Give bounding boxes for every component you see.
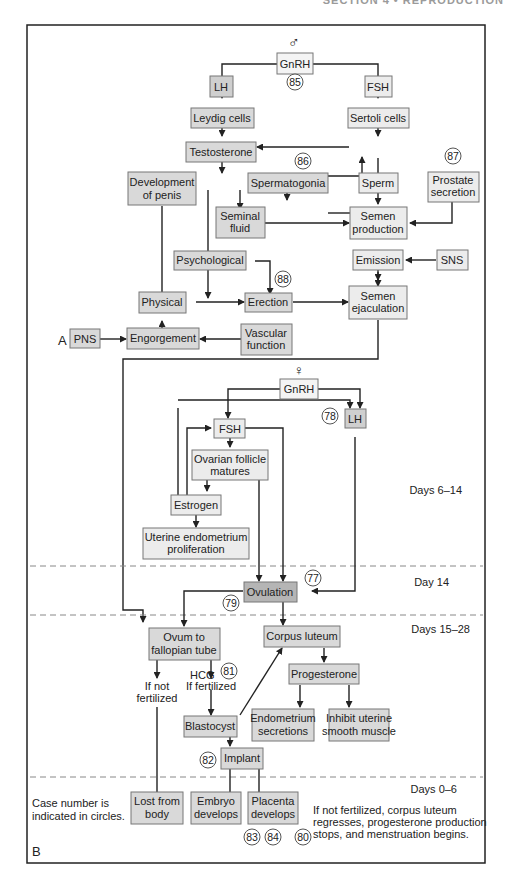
svg-text:SNS: SNS: [441, 254, 464, 266]
phase-days-6-14: Days 6–14: [409, 484, 462, 496]
svg-text:develops: develops: [251, 808, 296, 820]
box-ovulation: Ovulation: [244, 582, 297, 602]
box-development-of-penis: Development of penis: [128, 172, 196, 205]
box-semen-production: Semen production: [350, 207, 407, 239]
box-lost-from-body: Lost from body: [131, 792, 183, 824]
box-implant: Implant: [221, 748, 263, 769]
svg-text:body: body: [145, 808, 169, 820]
svg-text:FSH: FSH: [367, 81, 389, 93]
svg-text:87: 87: [447, 150, 459, 162]
case-82-badge: 82: [200, 752, 216, 768]
svg-text:Erection: Erection: [248, 296, 288, 308]
case-81-badge: 81: [221, 663, 237, 679]
svg-text:proliferation: proliferation: [167, 543, 224, 555]
phase-days-0-6: Days 0–6: [411, 783, 457, 795]
menstruation-note-2: regresses, progesterone production: [313, 816, 487, 828]
box-female-lh: LH: [345, 409, 366, 428]
svg-text:of penis: of penis: [143, 189, 182, 201]
svg-text:86: 86: [297, 155, 309, 167]
svg-text:ejaculation: ejaculation: [352, 302, 405, 314]
female-symbol-icon: ♀: [294, 362, 305, 378]
svg-text:Estrogen: Estrogen: [174, 499, 218, 511]
svg-text:smooth muscle: smooth muscle: [322, 725, 396, 737]
svg-text:FSH: FSH: [219, 423, 241, 435]
case-88-badge: 88: [275, 271, 291, 287]
svg-text:GnRH: GnRH: [284, 383, 315, 395]
box-semen-ejaculation: Semen ejaculation: [349, 286, 407, 319]
svg-text:Implant: Implant: [224, 752, 260, 764]
svg-text:Corpus luteum: Corpus luteum: [266, 630, 338, 642]
svg-text:LH: LH: [348, 413, 362, 425]
box-psychological: Psychological: [174, 251, 246, 270]
svg-text:Seminal: Seminal: [220, 210, 260, 222]
svg-text:Vascular: Vascular: [245, 327, 287, 339]
svg-text:77: 77: [307, 572, 319, 584]
svg-text:84: 84: [267, 831, 279, 843]
phase-day-14: Day 14: [414, 576, 449, 588]
box-sperm: Sperm: [359, 173, 398, 193]
svg-text:Uterine endometrium: Uterine endometrium: [145, 531, 248, 543]
case-87-badge: 87: [445, 148, 461, 164]
box-progesterone: Progesterone: [289, 664, 359, 684]
box-blastocyst: Blastocyst: [184, 716, 237, 737]
case-83-badge: 83: [244, 829, 260, 845]
svg-text:function: function: [247, 339, 286, 351]
box-inhibit-uterine: Inhibit uterine smooth muscle: [322, 709, 396, 741]
svg-text:Sperm: Sperm: [362, 177, 394, 189]
svg-text:82: 82: [202, 754, 214, 766]
svg-text:Spermatogonia: Spermatogonia: [251, 177, 326, 189]
phase-days-15-28: Days 15–28: [411, 623, 470, 635]
menstruation-note-3: stops, and menstruation begins.: [313, 828, 469, 840]
box-male-gnrh: GnRH: [277, 53, 313, 74]
menstruation-note-1: If not fertilized, corpus luteum: [313, 804, 457, 816]
box-uterine-endometrium: Uterine endometrium proliferation: [143, 528, 249, 559]
svg-text:Progesterone: Progesterone: [291, 668, 357, 680]
svg-text:Blastocyst: Blastocyst: [185, 720, 235, 732]
box-ovum-to-fallopian: Ovum to fallopian tube: [149, 628, 220, 660]
box-female-fsh: FSH: [214, 419, 245, 438]
svg-text:Ovulation: Ovulation: [247, 586, 293, 598]
svg-text:develops: develops: [194, 808, 239, 820]
panel-label-b: B: [32, 844, 41, 859]
box-seminal-fluid: Seminal fluid: [216, 207, 265, 238]
box-physical: Physical: [139, 292, 186, 313]
box-spermatogonia: Spermatogonia: [248, 173, 328, 193]
svg-text:Sertoli cells: Sertoli cells: [350, 112, 407, 124]
svg-text:Physical: Physical: [142, 296, 183, 308]
label-if-not-fertilized-2: fertilized: [137, 692, 178, 704]
box-estrogen: Estrogen: [171, 495, 221, 515]
svg-text:Semen: Semen: [361, 290, 396, 302]
svg-text:Embryo: Embryo: [197, 795, 235, 807]
label-if-fertilized: If fertilized: [186, 680, 236, 692]
svg-text:Engorgement: Engorgement: [130, 332, 196, 344]
box-leydig-cells: Leydig cells: [191, 108, 254, 128]
box-pns: PNS: [70, 329, 100, 348]
svg-text:fallopian tube: fallopian tube: [151, 644, 216, 656]
svg-text:78: 78: [324, 410, 336, 422]
box-vascular-function: Vascular function: [241, 324, 292, 355]
box-sns: SNS: [437, 250, 468, 270]
case-86-badge: 86: [295, 153, 311, 169]
male-symbol-icon: ♂: [288, 34, 300, 51]
svg-text:LH: LH: [214, 81, 228, 93]
svg-text:Development: Development: [130, 176, 195, 188]
svg-text:85: 85: [289, 76, 301, 88]
svg-text:Semen: Semen: [361, 210, 396, 222]
box-placenta-develops: Placenta develops: [248, 792, 298, 824]
svg-text:80: 80: [297, 831, 309, 843]
box-male-fsh: FSH: [365, 76, 392, 97]
box-prostate-secretion: Prostate secretion: [428, 172, 479, 202]
svg-text:Placenta: Placenta: [252, 795, 296, 807]
box-corpus-luteum: Corpus luteum: [264, 626, 340, 647]
svg-text:Leydig cells: Leydig cells: [193, 112, 251, 124]
box-testosterone: Testosterone: [186, 142, 256, 162]
panel-label-a: A: [58, 333, 67, 348]
svg-text:83: 83: [246, 831, 258, 843]
legend-note-1: Case number is: [32, 797, 110, 809]
svg-text:81: 81: [223, 665, 235, 677]
label-if-not-fertilized-1: If not: [145, 680, 169, 692]
box-female-gnrh: GnRH: [280, 379, 318, 399]
legend-note-2: indicated in circles.: [32, 810, 125, 822]
svg-text:79: 79: [225, 597, 237, 609]
case-77-badge: 77: [305, 570, 321, 586]
